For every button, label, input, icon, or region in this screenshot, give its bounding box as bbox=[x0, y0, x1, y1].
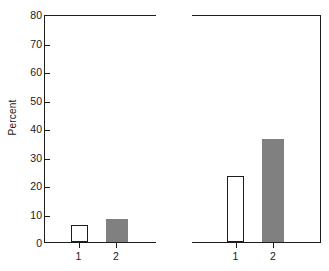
y-axis-tick-label: 70 bbox=[20, 38, 42, 50]
left-panel-plot-area bbox=[44, 15, 156, 243]
x-axis-tick-mark bbox=[236, 243, 237, 248]
y-axis-tick-label: 50 bbox=[20, 95, 42, 107]
x-axis-tick-label: 2 bbox=[258, 250, 288, 262]
y-axis-tick-label: 60 bbox=[20, 66, 42, 78]
bar-chart-figure: Percent 01020304050607080 12 12 bbox=[0, 0, 329, 271]
x-axis-tick-mark bbox=[116, 243, 117, 248]
y-axis-tick-label: 80 bbox=[20, 9, 42, 21]
y-axis-tick-mark bbox=[45, 159, 50, 160]
y-axis-tick-mark bbox=[45, 187, 50, 188]
right-panel: 12 bbox=[192, 0, 321, 271]
bar-2 bbox=[262, 139, 284, 242]
y-axis-tick-label: 30 bbox=[20, 152, 42, 164]
x-axis-tick-mark bbox=[79, 243, 80, 248]
bar-1 bbox=[227, 176, 244, 242]
x-axis-tick-label: 1 bbox=[221, 250, 251, 262]
x-axis-tick-label: 2 bbox=[101, 250, 131, 262]
right-panel-plot-area bbox=[192, 15, 321, 243]
bar-2 bbox=[106, 219, 128, 242]
y-axis-tick-label: 20 bbox=[20, 180, 42, 192]
y-axis-tick-label: 10 bbox=[20, 209, 42, 221]
y-axis-tick-labels: 01020304050607080 bbox=[20, 0, 42, 271]
y-axis-tick-label: 40 bbox=[20, 123, 42, 135]
y-axis-tick-label: 0 bbox=[20, 237, 42, 249]
y-axis-label: Percent bbox=[7, 83, 18, 153]
left-panel: 12 bbox=[44, 0, 156, 271]
x-axis-tick-label: 1 bbox=[64, 250, 94, 262]
y-axis-tick-mark bbox=[45, 216, 50, 217]
y-axis-tick-mark bbox=[45, 45, 50, 46]
y-axis-tick-mark bbox=[45, 130, 50, 131]
bar-1 bbox=[71, 225, 88, 242]
y-axis-tick-mark bbox=[45, 102, 50, 103]
x-axis-tick-mark bbox=[273, 243, 274, 248]
y-axis-tick-mark bbox=[45, 73, 50, 74]
